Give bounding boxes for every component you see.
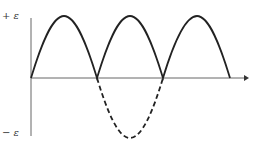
waveform-diagram xyxy=(0,0,254,142)
x-axis-arrow-icon xyxy=(244,75,249,81)
dashed-negative-half xyxy=(97,78,163,138)
rectified-wave xyxy=(31,16,230,78)
